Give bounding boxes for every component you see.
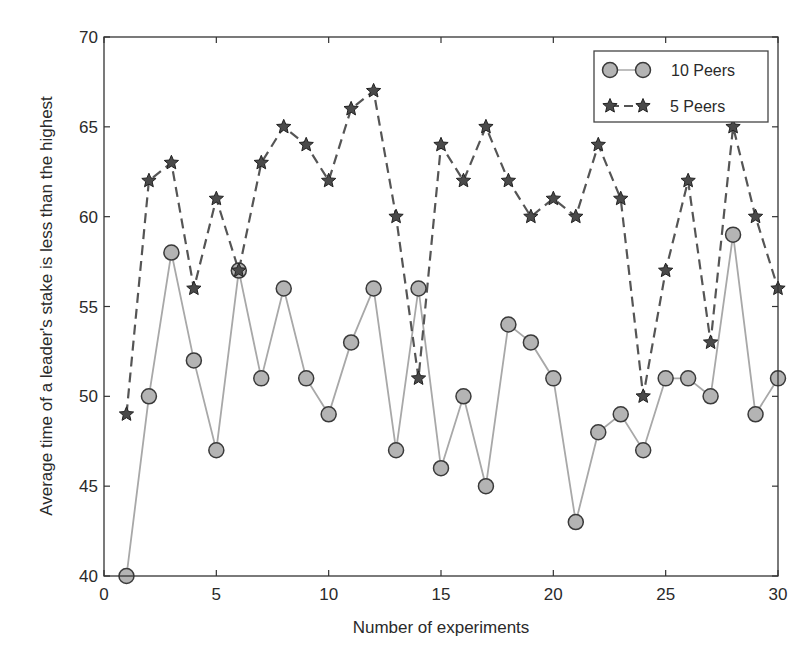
data-point — [523, 335, 538, 350]
circle-marker-icon — [603, 63, 618, 78]
y-tick-label: 65 — [79, 118, 98, 137]
y-tick-label: 50 — [79, 387, 98, 406]
data-point — [501, 317, 516, 332]
y-axis-label: Average time of a leader's stake is less… — [37, 96, 56, 516]
data-point — [321, 407, 336, 422]
data-point — [186, 353, 201, 368]
y-tick-label: 60 — [79, 208, 98, 227]
data-point — [726, 227, 741, 242]
x-tick-label: 25 — [656, 585, 675, 604]
data-point — [141, 389, 156, 404]
y-tick-label: 45 — [79, 477, 98, 496]
data-point — [434, 461, 449, 476]
data-point — [703, 389, 718, 404]
x-tick-label: 30 — [769, 585, 788, 604]
data-point — [591, 425, 606, 440]
data-point — [636, 443, 651, 458]
x-tick-label: 0 — [99, 585, 108, 604]
chart-canvas: 05101520253040455055606570 Number of exp… — [0, 0, 812, 663]
data-point — [276, 281, 291, 296]
data-point — [389, 443, 404, 458]
line-chart: 05101520253040455055606570 Number of exp… — [0, 0, 812, 663]
x-tick-label: 15 — [432, 585, 451, 604]
data-point — [478, 479, 493, 494]
y-tick-label: 70 — [79, 28, 98, 47]
legend-label: 5 Peers — [670, 98, 725, 115]
data-point — [254, 371, 269, 386]
data-point — [366, 281, 381, 296]
x-tick-label: 5 — [212, 585, 221, 604]
data-point — [344, 335, 359, 350]
y-tick-label: 55 — [79, 298, 98, 317]
data-point — [546, 371, 561, 386]
data-point — [164, 245, 179, 260]
data-point — [299, 371, 314, 386]
data-point — [613, 407, 628, 422]
data-point — [748, 407, 763, 422]
x-tick-label: 20 — [544, 585, 563, 604]
legend: 10 Peers 5 Peers — [594, 51, 768, 122]
data-point — [456, 389, 471, 404]
data-point — [209, 443, 224, 458]
y-tick-label: 40 — [79, 567, 98, 586]
data-point — [658, 371, 673, 386]
circle-marker-icon — [636, 63, 651, 78]
x-tick-label: 10 — [319, 585, 338, 604]
x-axis-label: Number of experiments — [353, 618, 530, 637]
data-point — [568, 515, 583, 530]
data-point — [411, 281, 426, 296]
data-point — [681, 371, 696, 386]
legend-label: 10 Peers — [671, 62, 735, 79]
